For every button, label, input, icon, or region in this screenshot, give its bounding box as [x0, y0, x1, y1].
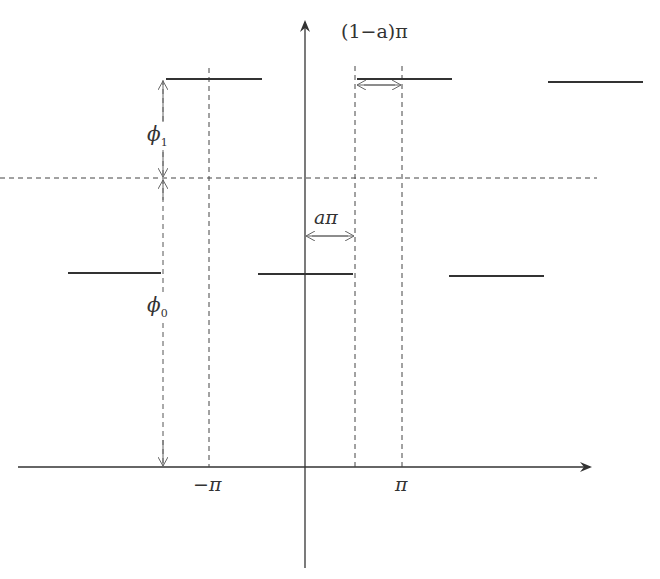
neg-pi-tick-label: −π: [193, 473, 221, 495]
width-lower-text: aπ: [314, 206, 338, 228]
diagram-svg: [0, 0, 660, 579]
width-lower-label: aπ: [314, 206, 338, 228]
width-upper-label: (1−a)π: [341, 20, 408, 42]
width-upper-text: (1−a)π: [341, 20, 408, 42]
phi1-subscript: 1: [161, 136, 168, 149]
neg-pi-text: −π: [193, 473, 221, 495]
pi-text: π: [395, 473, 408, 495]
phi1-symbol: ϕ: [147, 122, 161, 146]
phi0-subscript: 0: [161, 307, 168, 320]
pi-tick-label: π: [395, 473, 408, 495]
phi0-symbol: ϕ: [147, 293, 161, 317]
diagram-canvas: (1−a)π aπ ϕ1 ϕ0 −π π: [0, 0, 660, 579]
phi0-label: ϕ0: [147, 293, 168, 320]
phi1-label: ϕ1: [147, 122, 168, 149]
